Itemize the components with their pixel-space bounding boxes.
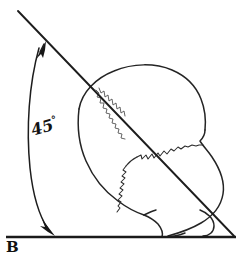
figure-canvas: B 45° (0, 0, 241, 264)
baseline-label-b: B (6, 240, 19, 255)
arrow-head-upper (36, 41, 46, 59)
arrow-head-lower (40, 219, 55, 236)
angle-arc-45-degrees (28, 48, 48, 229)
